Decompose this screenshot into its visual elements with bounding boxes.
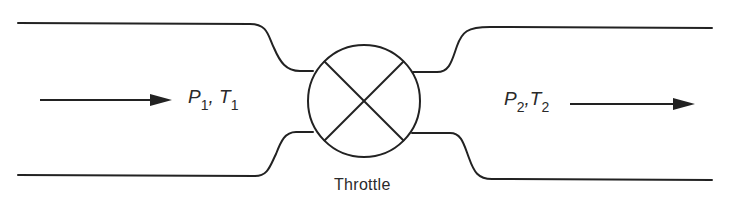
- inlet-flow-arrow-icon: [40, 94, 172, 106]
- inlet-state-label: P1, T1: [188, 86, 238, 113]
- outlet-flow-arrow-icon: [570, 98, 695, 110]
- outlet-pipe-top-wall: [413, 27, 712, 72]
- outlet-pipe-bottom-wall: [412, 133, 712, 180]
- outlet-temperature-subscript: 2: [541, 99, 549, 115]
- inlet-pressure-symbol: P: [188, 86, 201, 107]
- throttle-label: Throttle: [334, 176, 391, 194]
- outlet-state-label: P2,T2: [504, 88, 549, 115]
- inlet-pipe-top-wall: [18, 23, 313, 71]
- inlet-temperature-symbol: T: [219, 86, 231, 107]
- outlet-temperature-symbol: T: [530, 88, 542, 109]
- inlet-pipe-bottom-wall: [18, 132, 313, 176]
- inlet-separator: ,: [208, 86, 219, 107]
- throttle-diagram: [0, 0, 730, 205]
- inlet-temperature-subscript: 1: [231, 97, 239, 113]
- throttle-valve-icon: [308, 45, 420, 157]
- outlet-pressure-symbol: P: [504, 88, 517, 109]
